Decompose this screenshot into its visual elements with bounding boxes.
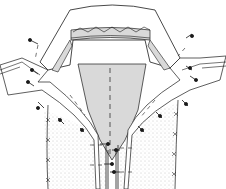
diagram-svg <box>0 0 226 189</box>
sewing-diagram <box>0 0 226 189</box>
